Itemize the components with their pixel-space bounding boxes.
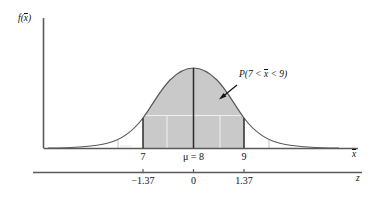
annotation-prefix: P(7 < [239, 69, 264, 79]
y-axis-label: f(x) [18, 14, 31, 24]
distribution-plot [0, 0, 381, 202]
annotation-variable: x [264, 70, 268, 80]
z-tick-label-zero: 0 [191, 176, 196, 186]
normal-distribution-figure: f(x) P(7 < x < 9) 7 μ = 8 9 −1.37 0 1.37… [0, 0, 381, 202]
mean-label: μ = 8 [183, 152, 204, 162]
x-tick-label-9: 9 [242, 152, 247, 162]
probability-annotation: P(7 < x < 9) [239, 70, 287, 80]
x-tick-label-7: 7 [141, 152, 146, 162]
z-tick-label-positive: 1.37 [235, 176, 253, 186]
z-tick-label-negative: −1.37 [131, 176, 154, 186]
x-axis-name: x [352, 150, 356, 160]
z-axis-name: z [356, 174, 360, 184]
annotation-suffix: < 9) [268, 69, 287, 79]
